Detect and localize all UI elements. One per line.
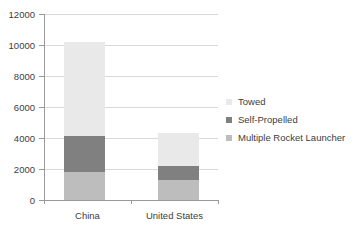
legend-label-self-propelled: Self-Propelled xyxy=(238,115,298,125)
y-tick-mark-10000 xyxy=(39,45,44,46)
legend-item-towed[interactable]: Towed xyxy=(226,93,354,111)
legend-swatch-multiple-rocket-launcher-icon xyxy=(226,135,232,141)
y-axis-label-10000: 10000 xyxy=(0,41,35,51)
bar-segment-china-multiple-rocket-launcher[interactable] xyxy=(64,172,105,200)
x-tick-mark-left xyxy=(44,200,45,204)
legend-label-towed: Towed xyxy=(238,97,265,107)
x-tick-mark-right xyxy=(218,200,219,204)
y-axis-label-12000: 12000 xyxy=(0,10,35,20)
plot-area xyxy=(44,14,218,200)
bar-stack-china[interactable] xyxy=(64,42,105,200)
y-tick-mark-12000 xyxy=(39,14,44,15)
x-tick-mark-middle xyxy=(131,200,132,204)
y-axis-label-8000: 8000 xyxy=(0,72,35,82)
legend-swatch-towed-icon xyxy=(226,99,232,105)
legend-label-multiple-rocket-launcher: Multiple Rocket Launcher xyxy=(238,133,345,143)
gridline-12000 xyxy=(44,14,218,15)
y-axis-label-4000: 4000 xyxy=(0,134,35,144)
x-axis-label-china: China xyxy=(44,210,131,221)
y-tick-mark-4000 xyxy=(39,138,44,139)
bar-segment-united-states-multiple-rocket-launcher[interactable] xyxy=(158,180,199,200)
y-axis-label-0: 0 xyxy=(0,196,35,206)
bar-segment-united-states-towed[interactable] xyxy=(158,133,199,166)
legend-item-multiple-rocket-launcher[interactable]: Multiple Rocket Launcher xyxy=(226,129,354,147)
stacked-bar-chart: 12000 10000 8000 6000 4000 2000 0 China … xyxy=(0,0,357,238)
legend-swatch-self-propelled-icon xyxy=(226,117,232,123)
legend-item-self-propelled[interactable]: Self-Propelled xyxy=(226,111,354,129)
y-axis-line xyxy=(44,14,45,201)
bar-segment-united-states-self-propelled[interactable] xyxy=(158,166,199,180)
bar-segment-china-self-propelled[interactable] xyxy=(64,136,105,172)
y-tick-mark-8000 xyxy=(39,76,44,77)
y-tick-mark-2000 xyxy=(39,169,44,170)
y-tick-mark-6000 xyxy=(39,107,44,108)
chart-legend: Towed Self-Propelled Multiple Rocket Lau… xyxy=(226,93,354,147)
y-axis-label-6000: 6000 xyxy=(0,103,35,113)
bar-stack-united-states[interactable] xyxy=(158,133,199,200)
x-axis-label-united-states: United States xyxy=(131,210,218,221)
bar-segment-china-towed[interactable] xyxy=(64,42,105,137)
y-axis-label-2000: 2000 xyxy=(0,165,35,175)
